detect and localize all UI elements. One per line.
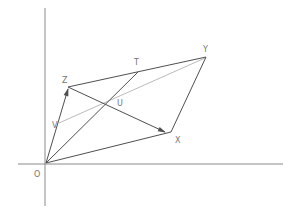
vector-diagram-figure: OZVTUYX (0, 0, 299, 213)
label-Y: Y (202, 45, 208, 54)
label-Z: Z (62, 76, 68, 85)
segment-O-Z-arrowhead-icon (64, 88, 69, 96)
segment-V-Y (59, 58, 205, 123)
label-T: T (133, 58, 139, 67)
label-X: X (175, 136, 181, 145)
segment-O-X (46, 132, 171, 163)
label-U: U (117, 99, 123, 108)
diagram-svg: OZVTUYX (0, 0, 299, 213)
label-O: O (34, 170, 40, 179)
label-V: V (52, 121, 58, 130)
segment-Z-X-arrowhead-icon (158, 127, 166, 133)
segment-Y-X (171, 57, 206, 132)
